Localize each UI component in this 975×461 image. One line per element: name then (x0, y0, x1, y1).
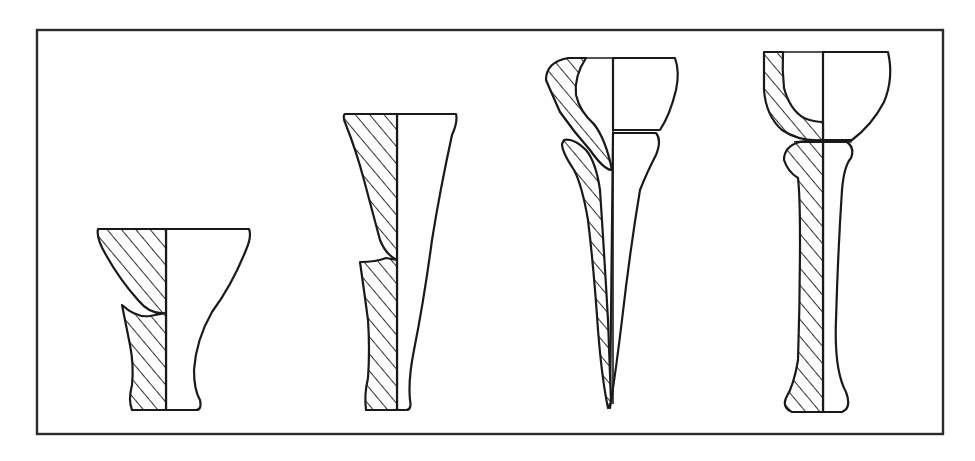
vessel-4-drawing (764, 52, 890, 412)
figure-canvas (0, 0, 975, 461)
vessel-1-drawing (98, 229, 250, 410)
vessel-3-drawing (546, 58, 678, 408)
vessel-2-drawing (344, 114, 457, 410)
